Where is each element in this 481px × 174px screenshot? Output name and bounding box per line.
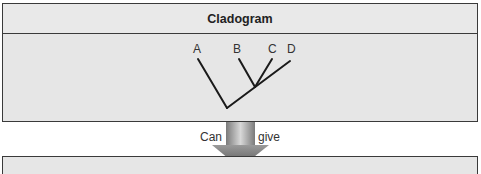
branch-d <box>227 61 290 108</box>
branch-b <box>239 59 255 87</box>
branch-a <box>198 59 227 108</box>
arrow-label-right: give <box>258 130 280 144</box>
arrow-label-left: Can <box>200 130 222 144</box>
taxon-label-c: C <box>268 42 277 56</box>
taxon-label-d: D <box>287 42 296 56</box>
taxon-label-b: B <box>233 42 241 56</box>
result-panel <box>2 156 478 174</box>
taxon-label-a: A <box>193 42 201 56</box>
branch-c <box>255 59 272 87</box>
cladogram-tree: A B C D <box>0 0 481 174</box>
